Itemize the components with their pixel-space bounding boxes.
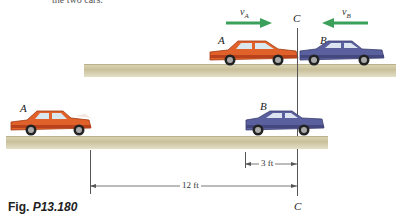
arrow-right-icon <box>226 18 272 28</box>
car-b-icon-bottom <box>244 108 326 136</box>
figure-caption: Fig. P13.180 <box>8 200 77 214</box>
dim-label-3ft: 3 ft <box>259 158 275 168</box>
line-c-label-top: C <box>293 12 300 24</box>
dim-label-12ft: 12 ft <box>180 180 201 190</box>
lower-ground <box>6 136 328 149</box>
car-a-icon-top <box>208 38 300 66</box>
arrow-left-icon <box>322 18 368 28</box>
car-b-icon-top <box>298 38 386 66</box>
caption-top-text: the two cars. <box>52 0 103 5</box>
line-c-label-bottom: C <box>294 200 301 212</box>
car-a-icon-bottom <box>9 108 93 136</box>
